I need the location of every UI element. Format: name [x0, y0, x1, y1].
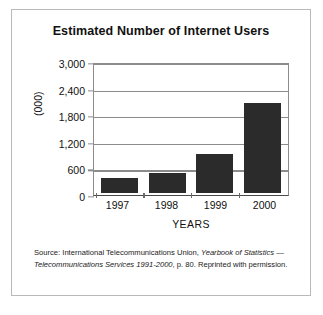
x-tick-label-1999: 1999	[191, 199, 240, 211]
source-note: Source: International Telecommunications…	[34, 247, 292, 272]
bar-group	[96, 64, 287, 193]
source-note-title-a: Yearbook of Statistics	[201, 248, 274, 257]
x-axis-labels: 1997 1998 1999 2000	[93, 199, 289, 211]
x-tick-left-1999	[191, 193, 192, 198]
y-tick-label-600: 600	[67, 164, 94, 176]
source-note-mid: —	[274, 248, 284, 257]
x-tick-label-1998: 1998	[142, 199, 191, 211]
x-axis-title: YEARS	[93, 218, 289, 230]
y-tick-label-3000: 3,000	[59, 58, 94, 70]
y-tick-label-1800: 1,800	[59, 111, 94, 123]
y-tick-label-1200: 1,200	[59, 138, 94, 150]
source-note-tail: , p. 80. Reprinted with permission.	[173, 260, 288, 269]
x-tick-label-1997: 1997	[93, 199, 142, 211]
bar-slot-1998	[143, 64, 191, 193]
x-tick-left-2000	[239, 193, 240, 198]
y-tick-label-2400: 2,400	[59, 85, 94, 97]
bar-1999	[196, 154, 233, 194]
source-note-lead: Source: International Telecommunications…	[34, 248, 201, 257]
y-tick-label-0: 0	[79, 191, 94, 203]
bar-slot-1997	[96, 64, 144, 193]
source-note-title-b: Telecommunications Services 1991-2000	[34, 260, 173, 269]
chart-figure: Estimated Number of Internet Users (000)…	[11, 9, 311, 296]
bar-slot-2000	[239, 64, 287, 193]
bar-slot-1999	[191, 64, 239, 193]
x-tick-left-1997	[96, 193, 97, 198]
x-tick-label-2000: 2000	[240, 199, 289, 211]
bar-2000	[244, 103, 281, 194]
plot-wrapper: 3,000 2,400 1,800 1,200 600 0	[93, 63, 289, 196]
chart-title: Estimated Number of Internet Users	[12, 24, 310, 38]
y-axis-title: (000)	[32, 91, 44, 116]
x-tick-left-1998	[143, 193, 144, 198]
plot-area: 3,000 2,400 1,800 1,200 600 0	[93, 63, 289, 196]
bar-1997	[101, 178, 138, 194]
bar-1998	[149, 173, 186, 193]
